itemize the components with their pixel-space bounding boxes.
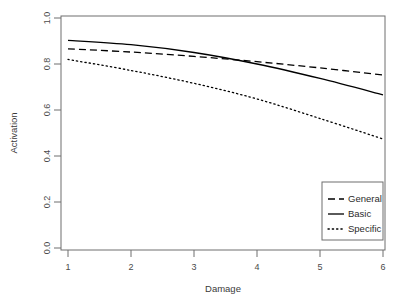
y-axis-title: Activation: [8, 112, 19, 153]
chart-container: 0.00.20.40.60.81.0 123456 Damage Activat…: [0, 0, 408, 302]
series-line-general: [68, 49, 383, 75]
legend[interactable]: GeneralBasicSpecific: [322, 182, 383, 240]
x-tick-label: 5: [317, 262, 322, 272]
x-tick-label: 4: [254, 262, 259, 272]
x-axis-title: Damage: [205, 283, 241, 294]
y-axis-ticks: [54, 18, 61, 248]
y-tick-label: 0.8: [42, 58, 52, 71]
x-tick-label: 3: [191, 262, 196, 272]
y-tick-label: 1.0: [42, 12, 52, 25]
x-axis-tick-labels: 123456: [65, 262, 385, 272]
y-tick-label: 0.0: [42, 242, 52, 255]
line-chart: 0.00.20.40.60.81.0 123456 Damage Activat…: [0, 0, 408, 302]
x-tick-label: 6: [380, 262, 385, 272]
x-tick-label: 1: [65, 262, 70, 272]
legend-label: General: [348, 193, 382, 204]
legend-label: Basic: [348, 208, 371, 219]
data-series-group: [68, 40, 383, 139]
x-tick-label: 2: [128, 262, 133, 272]
y-tick-label: 0.2: [42, 196, 52, 209]
y-tick-label: 0.4: [42, 150, 52, 163]
x-axis-ticks: [68, 250, 383, 257]
y-axis-tick-labels: 0.00.20.40.60.81.0: [42, 12, 52, 255]
series-line-specific: [68, 59, 383, 139]
legend-label: Specific: [348, 223, 382, 234]
y-tick-label: 0.6: [42, 104, 52, 117]
